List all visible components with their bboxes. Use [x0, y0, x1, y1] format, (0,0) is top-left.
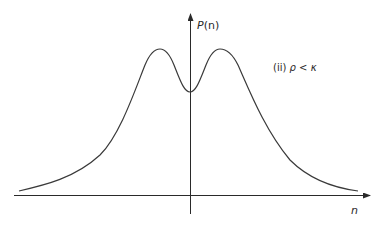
plot-canvas: [0, 0, 380, 226]
x-axis-label: n: [351, 205, 358, 216]
case-annotation: (ii) ρ < κ: [273, 63, 317, 73]
bimodal-distribution-figure: P(n) (ii) ρ < κ n: [0, 0, 380, 226]
y-axis-label: P(n): [197, 20, 219, 31]
